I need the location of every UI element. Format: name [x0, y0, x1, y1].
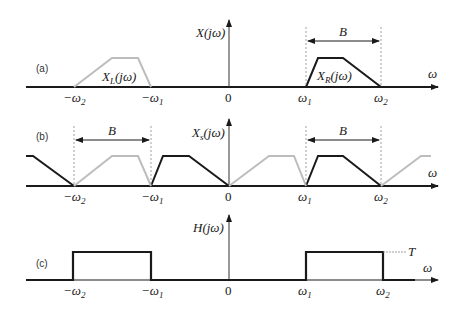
- panel-a: (a) ω X(jω) XL(jω) XR(jω) B −ω2 −ω1 0 ω1…: [26, 20, 438, 107]
- replica-light-3: [381, 156, 431, 186]
- tick-w1-b: ω1: [298, 189, 312, 206]
- replica-dark-3: [306, 156, 381, 186]
- tick-w2-c: ω2: [376, 283, 390, 300]
- panel-b: (b) ω Xs(jω) B B −ω2 −ω1 0 ω1 ω2: [26, 119, 438, 206]
- bandpass-sampling-diagram: (a) ω X(jω) XL(jω) XR(jω) B −ω2 −ω1 0 ω1…: [0, 0, 453, 310]
- tick-zero-c: 0: [225, 283, 232, 298]
- bandwidth-label-right-b: B: [339, 123, 347, 138]
- replica-dark-2: [151, 156, 229, 186]
- axis-label-Xs: Xs(jω): [191, 125, 225, 142]
- bandwidth-label-left-b: B: [108, 123, 116, 138]
- bandwidth-label-a: B: [339, 24, 347, 39]
- gain-label-T: T: [408, 244, 416, 259]
- bandpass-filter-response: [26, 252, 415, 280]
- replica-dark-1: [26, 156, 74, 186]
- replica-light-1: [74, 156, 151, 186]
- tick-neg-w1-a: −ω1: [141, 90, 163, 107]
- tick-neg-w1-b: −ω1: [141, 189, 163, 206]
- tick-neg-w2-c: −ω2: [63, 283, 86, 300]
- tick-w1-a: ω1: [298, 90, 312, 107]
- tick-zero-a: 0: [225, 90, 232, 105]
- panel-label-b: (b): [36, 131, 48, 142]
- tick-w1-c: ω1: [298, 283, 312, 300]
- panel-c: (c) ω H(jω) T −ω2 −ω1 0 ω1 ω2: [26, 215, 438, 300]
- tick-w2-b: ω2: [374, 189, 388, 206]
- tick-neg-w2-a: −ω2: [63, 90, 86, 107]
- omega-axis-label-c: ω: [423, 260, 432, 275]
- axis-label-X: X(jω): [195, 25, 225, 40]
- panel-label-c: (c): [36, 258, 48, 269]
- spectrum-label-XR: XR(jω): [316, 68, 352, 85]
- axis-label-H: H(jω): [192, 220, 224, 235]
- spectrum-label-XL: XL(jω): [101, 69, 136, 86]
- replica-light-2: [229, 156, 306, 186]
- panel-label-a: (a): [36, 63, 48, 74]
- omega-axis-label-a: ω: [428, 66, 437, 81]
- tick-neg-w2-b: −ω2: [63, 189, 86, 206]
- omega-axis-label-b: ω: [428, 165, 437, 180]
- tick-zero-b: 0: [225, 189, 232, 204]
- tick-w2-a: ω2: [374, 90, 388, 107]
- tick-neg-w1-c: −ω1: [141, 283, 163, 300]
